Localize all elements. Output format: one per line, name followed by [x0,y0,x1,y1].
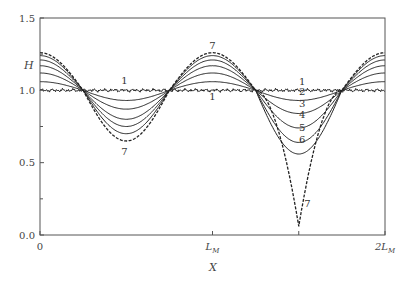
y-tick-label: 1.0 [19,85,35,96]
curve-label: 7 [121,146,127,157]
y-axis-title: H [23,59,34,72]
curve-label: 2 [299,86,305,97]
curve-label: 6 [299,134,305,145]
y-tick-label: 0.0 [19,230,35,241]
y-tick-label: 1.5 [19,13,35,24]
curve-label: 5 [299,122,305,133]
curve-7 [40,53,385,227]
y-tick-label: 0.5 [19,157,35,168]
curve-label: 7 [209,40,215,51]
curve-label: 3 [299,98,305,109]
x-tick-label: 0 [37,241,43,252]
curve-label: 7 [304,198,310,209]
x-axis-title: X [208,261,218,274]
film-thickness-chart: 0.00.51.01.5 0LM2LM 17711234567 H X [0,0,413,283]
curve-label: 1 [121,75,127,86]
curve-label: 4 [299,109,305,120]
x-tick-label: 2LM [374,241,396,255]
curves [40,53,385,227]
x-tick-label: LM [205,241,221,255]
curve-6 [40,56,385,154]
curve-label: 1 [209,91,215,102]
